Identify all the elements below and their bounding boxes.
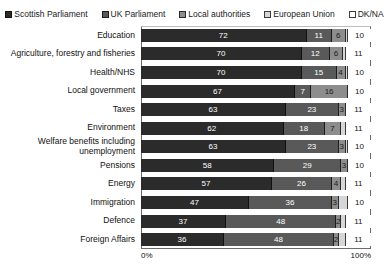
bar-segment[interactable]: 10 — [348, 29, 371, 42]
bar-segment-value: 12 — [311, 49, 320, 58]
legend-item-label: Scottish Parliament — [14, 10, 87, 19]
bar-segment-value: 6 — [336, 31, 340, 40]
category-label: Welfare benefits including unemployment — [0, 137, 138, 156]
bar-segment[interactable]: 48 — [226, 215, 336, 228]
chart-row: Defence3748211 — [0, 212, 379, 231]
legend-item[interactable]: European Union — [264, 10, 334, 19]
bar-segment[interactable]: 4 — [332, 177, 341, 190]
stacked-bar[interactable]: 5829310 — [141, 159, 371, 172]
bar-segment-value: 4 — [338, 68, 342, 77]
legend-swatch-icon — [264, 11, 271, 18]
bar-segment[interactable]: 10 — [348, 66, 371, 79]
bar-segment-value: 10 — [355, 68, 364, 77]
stacked-bar[interactable]: 4736310 — [141, 196, 371, 209]
legend-item-label: Local authorities — [188, 10, 250, 19]
bar-segment[interactable]: 3 — [341, 159, 348, 172]
stacked-bar[interactable]: 7211610 — [141, 29, 371, 42]
bar-segment[interactable]: 48 — [224, 233, 334, 246]
bar-segment[interactable]: 12 — [302, 47, 330, 60]
bar-segment[interactable] — [339, 196, 348, 209]
category-label: Environment — [0, 123, 138, 133]
bar-segment[interactable]: 63 — [141, 140, 286, 153]
bar-segment-value: 7 — [300, 87, 304, 96]
bar-segment-value: 15 — [314, 68, 323, 77]
stacked-bar[interactable]: 5726411 — [141, 177, 371, 190]
stacked-bar[interactable]: 3648211 — [141, 233, 371, 246]
bar-segment-value: 18 — [299, 124, 308, 133]
legend-swatch-icon — [179, 11, 186, 18]
bar-segment-value: 11 — [354, 105, 362, 114]
bar-segment[interactable]: 10 — [348, 159, 371, 172]
stacked-bar[interactable]: 7012611 — [141, 47, 371, 60]
bar-segment[interactable]: 70 — [141, 66, 302, 79]
category-label: Immigration — [0, 198, 138, 208]
bar-segment-value: 36 — [286, 198, 295, 207]
bar-segment[interactable]: 11 — [346, 233, 371, 246]
bar-segment[interactable]: 36 — [249, 196, 332, 209]
bar-segment-value: 11 — [354, 49, 362, 58]
bar-segment[interactable]: 26 — [272, 177, 332, 190]
bar-segment[interactable]: 57 — [141, 177, 272, 190]
bar-segment[interactable] — [339, 233, 346, 246]
bar-segment-value: 23 — [307, 105, 316, 114]
bar-segment[interactable]: 11 — [346, 122, 371, 135]
bar-segment-value: 11 — [354, 179, 362, 188]
bar-segment[interactable]: 3 — [339, 103, 346, 116]
stacked-bar[interactable]: 7015410 — [141, 66, 371, 79]
bar-segment[interactable]: 62 — [141, 122, 284, 135]
bar-segment[interactable]: 18 — [284, 122, 325, 135]
chart-row: Health/NHS7015410 — [0, 63, 379, 82]
legend-item-label: DK/NA — [358, 10, 384, 19]
bar-segment[interactable]: 16 — [311, 85, 348, 98]
bar-segment[interactable]: 10 — [348, 140, 371, 153]
bar-segment[interactable]: 11 — [346, 177, 371, 190]
stacked-bar[interactable]: 3748211 — [141, 215, 371, 228]
bar-segment[interactable]: 67 — [141, 85, 295, 98]
bar-segment[interactable]: 6 — [330, 47, 344, 60]
bar-segment[interactable]: 7 — [325, 122, 341, 135]
bar-segment[interactable]: 11 — [307, 29, 332, 42]
bar-segment[interactable]: 72 — [141, 29, 307, 42]
chart-row: Environment6218711 — [0, 119, 379, 138]
stacked-bar[interactable]: 6323310 — [141, 140, 371, 153]
bar-segment[interactable]: 4 — [337, 66, 346, 79]
bar-segment[interactable]: 10 — [348, 85, 371, 98]
bar-segment[interactable]: 70 — [141, 47, 302, 60]
bar-segment-value: 10 — [355, 31, 364, 40]
chart-row: Foreign Affairs3648211 — [0, 230, 379, 249]
bar-segment-value: 3 — [340, 142, 344, 151]
bar-segment[interactable]: 11 — [346, 47, 371, 60]
bar-segment-value: 62 — [207, 124, 216, 133]
chart-row: Local government6771610 — [0, 82, 379, 101]
bar-segment[interactable]: 7 — [295, 85, 311, 98]
legend-item[interactable]: Scottish Parliament — [5, 10, 87, 19]
bar-segment[interactable]: 3 — [332, 196, 339, 209]
chart-row: Pensions5829310 — [0, 156, 379, 175]
bar-segment[interactable]: 36 — [141, 233, 224, 246]
bar-segment[interactable]: 29 — [274, 159, 341, 172]
bar-segment[interactable]: 3 — [339, 140, 346, 153]
stacked-bar[interactable]: 6771610 — [141, 85, 371, 98]
bar-segment-value: 11 — [315, 31, 323, 40]
bar-segment-value: 70 — [217, 49, 226, 58]
legend-item[interactable]: Local authorities — [179, 10, 250, 19]
legend-item[interactable]: DK/NA — [349, 10, 384, 19]
bar-segment[interactable]: 63 — [141, 103, 286, 116]
stacked-bar[interactable]: 6323311 — [141, 103, 371, 116]
bar-segment[interactable]: 11 — [346, 103, 371, 116]
bar-segment[interactable]: 6 — [332, 29, 346, 42]
legend-item[interactable]: UK Parliament — [102, 10, 166, 19]
bar-segment-value: 7 — [330, 124, 334, 133]
bar-segment[interactable]: 23 — [286, 103, 339, 116]
bar-segment[interactable]: 11 — [346, 215, 371, 228]
stacked-bar[interactable]: 6218711 — [141, 122, 371, 135]
bar-segment[interactable]: 37 — [141, 215, 226, 228]
chart-row: Agriculture, forestry and fisheries70126… — [0, 45, 379, 64]
bar-segment[interactable]: 10 — [348, 196, 371, 209]
bar-segment[interactable]: 47 — [141, 196, 249, 209]
x-axis: 0% 100% — [141, 251, 371, 263]
bar-segment[interactable]: 23 — [286, 140, 339, 153]
bar-segment[interactable]: 58 — [141, 159, 274, 172]
bar-segment[interactable]: 15 — [302, 66, 337, 79]
